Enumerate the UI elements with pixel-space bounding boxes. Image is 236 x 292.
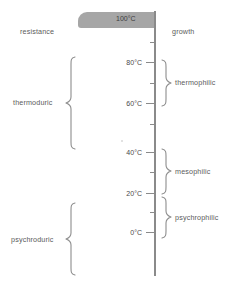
label-thermophilic: thermophilic: [175, 79, 216, 86]
axis-tick-20: [146, 193, 155, 194]
axis-minor-tick-30: [150, 172, 155, 173]
axis-tick-40: [146, 152, 155, 153]
heading-growth: growth: [172, 28, 194, 35]
label-thermoduric: thermoduric: [13, 99, 53, 106]
axis-label-20: 20°C: [108, 190, 142, 197]
temperature-growth-diagram: 100°C resistance growth 80°C 60°C 40°C 2…: [0, 0, 236, 292]
axis-label-80: 80°C: [108, 59, 142, 66]
axis-minor-tick-70: [150, 83, 155, 84]
temperature-axis-line: [154, 11, 156, 276]
bar-temperature-label: 100°C: [116, 15, 136, 22]
axis-minor-tick-50: [150, 124, 155, 125]
label-psychrophilic: psychrophilic: [175, 214, 219, 221]
brace-mesophilic: [160, 148, 174, 195]
brace-psychroduric: [64, 202, 78, 276]
axis-label-40: 40°C: [108, 149, 142, 156]
brace-thermophilic: [160, 59, 174, 107]
axis-minor-tick-10: [150, 212, 155, 213]
brace-psychrophilic: [160, 196, 174, 239]
axis-tick-80: [146, 62, 155, 63]
axis-label-0: 0°C: [108, 229, 142, 236]
label-mesophilic: mesophilic: [175, 168, 210, 175]
axis-minor-tick-90: [150, 42, 155, 43]
label-psychroduric: psychroduric: [11, 236, 54, 243]
axis-tick-0: [146, 232, 155, 233]
axis-tick-60: [146, 103, 155, 104]
heading-resistance: resistance: [20, 28, 54, 35]
scan-speck: [121, 140, 123, 142]
axis-label-60: 60°C: [108, 100, 142, 107]
brace-thermoduric: [64, 56, 78, 150]
